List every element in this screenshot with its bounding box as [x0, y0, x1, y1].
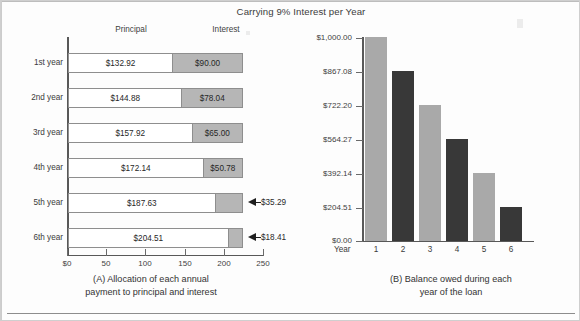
chart-a-callout-arrow [248, 198, 256, 206]
chart-b-y-tick [356, 241, 363, 242]
chart-a-x-tick [263, 249, 264, 256]
chart-a-principal-segment: $157.92 [69, 124, 192, 142]
chart-a-bar-row[interactable]: $157.92 $65.00 [68, 123, 243, 143]
chart-a-interest-segment: $65.00 [192, 124, 242, 142]
chart-a-row-label: 2nd year [9, 93, 63, 102]
chart-b-x-tick-label: 1 [364, 245, 388, 254]
chart-b-y-tick-label: $204.51 [286, 203, 352, 212]
chart-a-interest-value: $50.78 [210, 164, 235, 173]
chart-b-y-tick-label: $722.20 [286, 101, 352, 110]
chart-a-principal-value: $144.88 [110, 94, 140, 103]
chart-b-caption-line-1: (B) Balance owed during each [351, 273, 551, 286]
chart-b-y-tick [356, 106, 363, 107]
chart-a-x-tick-label: 50 [91, 259, 121, 268]
chart-b-bar[interactable] [473, 173, 495, 241]
chart-a-x-tick [106, 249, 107, 256]
chart-a-principal-segment: $204.51 [69, 229, 228, 247]
chart-b-y-tick-label: $564.27 [286, 135, 352, 144]
chart-a-bar-row[interactable]: $187.63 [68, 193, 243, 213]
chart-a-caption-line-2: payment to principal and interest [36, 286, 266, 299]
chart-b-y-tick [356, 140, 363, 141]
chart-a-x-tick [145, 249, 146, 256]
chart-b-x-tick-label: 4 [445, 245, 469, 254]
chart-a-principal-segment: $144.88 [69, 89, 181, 107]
chart-a-principal-value: $172.14 [121, 164, 151, 173]
chart-a-callout-arrow [248, 233, 256, 241]
chart-b-balance: $1,000.00 $867.08 $722.20 $564.27 $392.1… [286, 23, 580, 293]
chart-a-x-axis [67, 255, 263, 256]
chart-a-x-tick-label: 250 [248, 259, 278, 268]
chart-a-bar-row[interactable]: $204.51 [68, 228, 243, 248]
chart-a-principal-segment: $132.92 [69, 54, 172, 72]
chart-a-interest-value: $78.04 [200, 94, 225, 103]
chart-b-bar[interactable] [392, 71, 414, 241]
chart-b-x-axis-title: Year [334, 245, 351, 254]
chart-a-interest-value: $65.00 [205, 129, 230, 138]
chart-a-principal-segment: $172.14 [69, 159, 203, 177]
chart-a-x-tick [67, 249, 68, 256]
chart-a-interest-segment [228, 229, 242, 247]
chart-a-interest-segment [215, 194, 242, 212]
chart-b-y-tick-label: $392.14 [286, 169, 352, 178]
figure-title: Carrying 9% Interest per Year [201, 6, 401, 17]
chart-b-y-tick [356, 38, 363, 39]
column-header-principal: Principal [81, 25, 181, 34]
chart-b-caption: (B) Balance owed during each year of the… [351, 273, 551, 299]
chart-a-caption: (A) Allocation of each annual payment to… [36, 273, 266, 299]
frame-border-top [1, 1, 580, 2]
chart-a-x-tick [224, 249, 225, 256]
chart-b-caption-line-2: year of the loan [351, 286, 551, 299]
column-header-interest: Interest [176, 25, 276, 34]
chart-a-callout-label: $35.29 [261, 198, 286, 207]
chart-b-y-tick [356, 72, 363, 73]
chart-a-principal-value: $204.51 [134, 234, 164, 243]
chart-a-principal-value: $157.92 [115, 129, 145, 138]
chart-b-bar[interactable] [365, 37, 387, 241]
chart-a-interest-value: $90.00 [195, 59, 220, 68]
chart-a-principal-value: $187.63 [127, 199, 157, 208]
chart-a-x-tick-label: $0 [52, 259, 82, 268]
chart-b-y-tick-label: $0.00 [286, 236, 352, 245]
chart-b-x-tick-label: 3 [418, 245, 442, 254]
chart-a-interest-segment: $90.00 [172, 54, 242, 72]
chart-a-row-label: 6th year [9, 233, 63, 242]
chart-a-x-tick-label: 200 [209, 259, 239, 268]
chart-b-bar[interactable] [419, 105, 441, 241]
chart-a-principal-segment: $187.63 [69, 194, 215, 212]
chart-a-caption-line-1: (A) Allocation of each annual [36, 273, 266, 286]
chart-a-row-label: 4th year [9, 163, 63, 172]
chart-b-x-axis [362, 241, 534, 242]
chart-a-x-tick-label: 100 [130, 259, 160, 268]
chart-a-callout-label: $18.41 [261, 233, 286, 242]
chart-b-x-tick-label: 2 [391, 245, 415, 254]
chart-a-row-label: 5th year [9, 198, 63, 207]
figure-panel: Carrying 9% Interest per Year Principal … [0, 0, 580, 321]
chart-a-bar-row[interactable]: $172.14 $50.78 [68, 158, 243, 178]
chart-a-x-tick-label: 150 [170, 259, 200, 268]
chart-a-principal-value: $132.92 [106, 59, 136, 68]
chart-b-x-tick-label: 6 [499, 245, 523, 254]
chart-a-row-label: 1st year [9, 58, 63, 67]
chart-b-y-tick-label: $1,000.00 [286, 33, 352, 42]
frame-border-bottom [7, 313, 575, 314]
chart-b-y-tick [356, 174, 363, 175]
chart-b-x-tick-label: 5 [472, 245, 496, 254]
chart-a-interest-segment: $78.04 [181, 89, 242, 107]
chart-a-allocation: Principal Interest 1st year 2nd year 3rd… [1, 23, 286, 293]
chart-b-bar[interactable] [446, 139, 468, 241]
chart-b-bar[interactable] [500, 207, 522, 241]
chart-a-row-label: 3rd year [9, 128, 63, 137]
chart-b-y-tick [356, 208, 363, 209]
chart-a-bar-row[interactable]: $144.88 $78.04 [68, 88, 243, 108]
chart-a-bar-row[interactable]: $132.92 $90.00 [68, 53, 243, 73]
chart-a-interest-segment: $50.78 [203, 159, 242, 177]
chart-a-x-tick [185, 249, 186, 256]
chart-b-y-tick-label: $867.08 [286, 67, 352, 76]
